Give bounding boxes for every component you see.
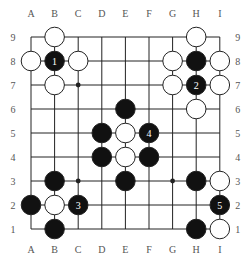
black-stone[interactable]: 4 [139, 123, 159, 143]
black-stone[interactable] [92, 123, 112, 143]
column-label: I [218, 244, 221, 255]
row-label: 5 [11, 128, 16, 139]
white-stone[interactable] [116, 123, 136, 143]
row-label: 3 [235, 176, 240, 187]
row-label: 5 [235, 128, 240, 139]
column-label: F [146, 8, 152, 19]
row-label: 8 [11, 56, 16, 67]
black-stone[interactable] [45, 171, 65, 191]
column-label: C [75, 8, 82, 19]
black-stone[interactable]: 2 [186, 75, 206, 95]
black-stone[interactable] [186, 171, 206, 191]
black-stone[interactable]: 1 [45, 51, 65, 71]
white-stone[interactable] [68, 51, 88, 71]
row-label: 2 [11, 200, 16, 211]
row-label: 6 [11, 104, 16, 115]
row-label: 6 [235, 104, 240, 115]
row-label: 1 [235, 224, 240, 235]
white-stone[interactable] [210, 219, 230, 239]
star-point [76, 179, 81, 184]
black-stone[interactable] [116, 99, 136, 119]
move-number: 4 [147, 128, 152, 139]
black-stone[interactable] [92, 147, 112, 167]
column-label: A [27, 8, 35, 19]
column-label: G [169, 244, 176, 255]
move-number: 1 [52, 56, 57, 67]
black-stone[interactable] [139, 147, 159, 167]
white-stone[interactable] [210, 51, 230, 71]
white-stone[interactable] [210, 171, 230, 191]
row-label: 4 [235, 152, 240, 163]
move-number: 3 [76, 200, 81, 211]
row-label: 8 [235, 56, 240, 67]
column-label: G [169, 8, 176, 19]
black-stone[interactable] [186, 51, 206, 71]
move-number: 2 [194, 80, 199, 91]
white-stone[interactable] [21, 51, 41, 71]
white-stone[interactable] [210, 75, 230, 95]
white-stone[interactable] [116, 147, 136, 167]
column-label: A [27, 244, 35, 255]
white-stone[interactable] [163, 75, 183, 95]
black-stone[interactable] [186, 219, 206, 239]
row-label: 3 [11, 176, 16, 187]
row-label: 7 [11, 80, 16, 91]
column-label: E [122, 244, 128, 255]
black-stone[interactable]: 5 [210, 195, 230, 215]
column-label: D [98, 8, 105, 19]
column-label: B [51, 244, 58, 255]
column-label: E [122, 8, 128, 19]
white-stone[interactable] [163, 51, 183, 71]
column-label: C [75, 244, 82, 255]
white-stone[interactable] [45, 75, 65, 95]
star-point [76, 83, 81, 88]
black-stone[interactable] [116, 171, 136, 191]
move-number: 5 [217, 200, 222, 211]
row-label: 9 [235, 32, 240, 43]
column-label: F [146, 244, 152, 255]
black-stone[interactable]: 3 [68, 195, 88, 215]
go-board[interactable]: AABBCCDDEEFFGGHHII998877665544332211 124… [0, 0, 247, 264]
white-stone[interactable] [186, 27, 206, 47]
row-label: 7 [235, 80, 240, 91]
row-label: 9 [11, 32, 16, 43]
black-stone[interactable] [21, 195, 41, 215]
row-label: 1 [11, 224, 16, 235]
column-label: H [193, 8, 200, 19]
column-label: I [218, 8, 221, 19]
column-label: D [98, 244, 105, 255]
column-label: B [51, 8, 58, 19]
star-point [170, 179, 175, 184]
row-label: 4 [11, 152, 16, 163]
black-stone[interactable] [45, 219, 65, 239]
white-stone[interactable] [186, 99, 206, 119]
row-label: 2 [235, 200, 240, 211]
column-label: H [193, 244, 200, 255]
white-stone[interactable] [45, 27, 65, 47]
white-stone[interactable] [45, 195, 65, 215]
